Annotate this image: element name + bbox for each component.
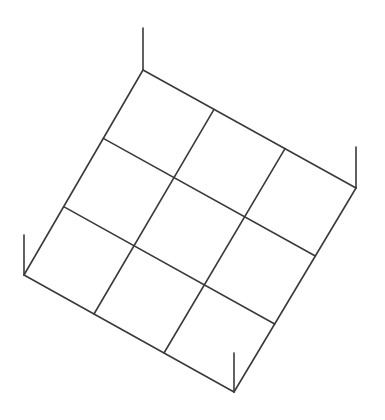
- grid-line-col-1: [94, 109, 214, 314]
- grid-frame-drawing: [0, 0, 385, 420]
- edge-top-right: [143, 70, 356, 188]
- drawing-canvas: [0, 0, 385, 420]
- grid-line-col-2: [164, 149, 285, 353]
- grid-line-row-1: [103, 138, 315, 256]
- frame-outline: [24, 70, 356, 392]
- edge-bottom-left: [24, 275, 234, 392]
- corner-posts: [24, 28, 356, 392]
- edge-right-bottom: [234, 188, 356, 392]
- edge-left-top: [24, 70, 143, 275]
- inner-grid-lines: [64, 109, 316, 353]
- grid-line-row-2: [64, 207, 275, 324]
